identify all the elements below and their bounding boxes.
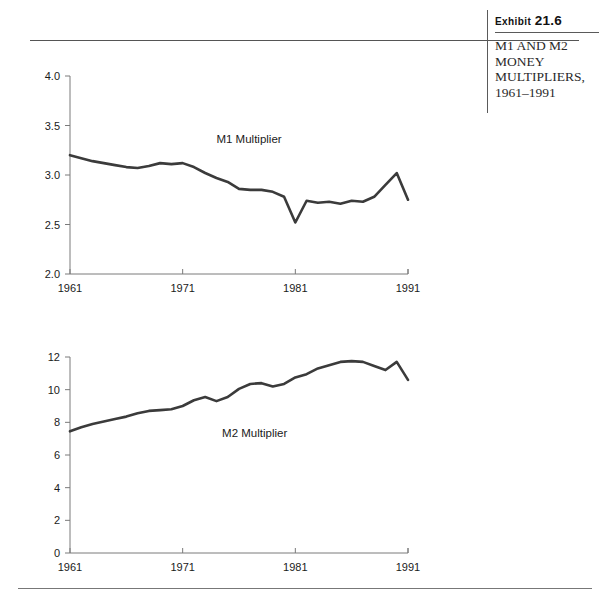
y-tick-label-1: 2.5 [45,219,60,231]
x-tick-label-2: 1981 [283,282,307,294]
x-tick-label-1: 1971 [170,561,194,573]
x-tick-label-1: 1971 [170,282,194,294]
y-tick-label-4: 4.0 [45,70,60,82]
series-line-0 [70,155,408,222]
y-tick-label-0: 0 [54,547,60,559]
chart-m2-multiplier: 0246810121961197119811991M2 Multiplier [0,340,470,585]
x-tick-label-3: 1991 [396,561,420,573]
x-tick-label-0: 1961 [58,561,82,573]
exhibit-title-line-4: 1961–1991 [495,85,602,101]
exhibit-title: M1 AND M2 MONEY MULTIPLIERS, 1961–1991 [487,33,602,100]
y-tick-label-5: 10 [48,384,60,396]
chart-axis-1 [70,357,408,553]
page-bottom-rule [18,588,592,589]
y-tick-label-1: 2 [54,514,60,526]
series-line-0 [70,361,408,431]
series-annotation-0: M2 Multiplier [222,427,287,439]
x-tick-label-0: 1961 [58,282,82,294]
y-tick-label-2: 3.0 [45,169,60,181]
chart-axis-0 [70,76,408,274]
chart-m2-svg: 0246810121961197119811991M2 Multiplier [0,340,470,585]
series-annotation-0: M1 Multiplier [216,133,281,145]
chart-m1-svg: 2.02.53.03.54.01961197119811991M1 Multip… [0,58,470,298]
exhibit-prefix: Exhibit [495,16,531,27]
y-tick-label-3: 6 [54,449,60,461]
y-tick-label-3: 3.5 [45,120,60,132]
exhibit-title-line-2: MONEY [495,54,602,70]
y-tick-label-2: 4 [54,482,60,494]
x-tick-label-2: 1981 [283,561,307,573]
exhibit-page: { "caption": { "exhibit_prefix": "Exhibi… [0,0,609,603]
x-tick-label-3: 1991 [396,282,420,294]
exhibit-title-line-1: M1 AND M2 [495,38,602,54]
exhibit-title-line-3: MULTIPLIERS, [495,69,602,85]
exhibit-label: Exhibit 21.6 [487,10,602,28]
chart-m1-multiplier: 2.02.53.03.54.01961197119811991M1 Multip… [0,58,470,298]
y-tick-label-4: 8 [54,416,60,428]
exhibit-caption: Exhibit 21.6 M1 AND M2 MONEY MULTIPLIERS… [487,10,602,100]
y-tick-label-6: 12 [48,351,60,363]
exhibit-number: 21.6 [535,13,562,28]
y-tick-label-0: 2.0 [45,268,60,280]
